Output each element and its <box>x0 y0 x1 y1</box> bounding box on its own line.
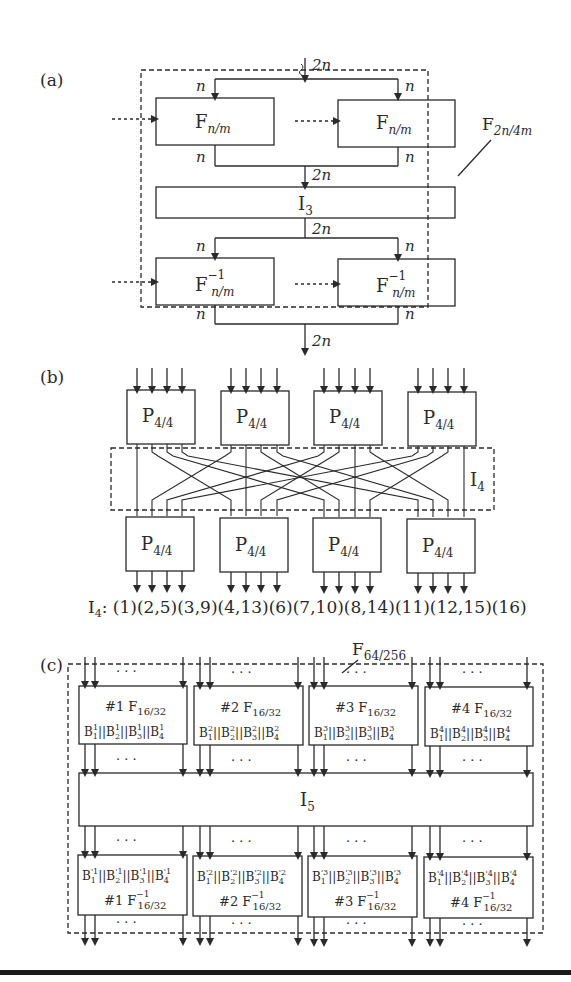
ellipsis: · · · <box>462 917 483 932</box>
ellipsis: · · · <box>231 665 252 680</box>
permutation-wires <box>137 444 464 517</box>
ellipsis: · · · <box>346 834 367 849</box>
interleaver-label: I3 <box>298 193 313 218</box>
ellipsis: · · · <box>116 915 137 930</box>
ellipsis: · · · <box>346 753 367 768</box>
branch-width-label: n <box>405 77 415 95</box>
block-contents: B1'1||B2'1||B3'1||B4'1 B1'2||B2'2||B3'2|… <box>82 867 517 887</box>
ellipsis: · · · <box>116 664 137 679</box>
p-block-label: P4/4 <box>141 533 173 558</box>
ellipsis: · · · <box>116 833 137 848</box>
block-title: #1 F−116/32 <box>104 889 166 911</box>
interleaver-label: I5 <box>300 789 315 814</box>
svg-text:B1'2||B2'2||B3'2||B4'2: B1'2||B2'2||B3'2||B4'2 <box>197 868 286 886</box>
top-arrows <box>85 657 527 686</box>
branch-width-label: n <box>196 148 206 166</box>
width-label: 2n <box>311 220 331 238</box>
branch-width-label: n <box>405 237 415 255</box>
block-title: #4 F16/32 <box>451 701 512 719</box>
branch-width-label: n <box>405 148 415 166</box>
panel-a: (a) 2n n n Fn/m Fn/m n n 2n F2n/4m I <box>40 56 532 352</box>
svg-text:B13||B23||B33||B43: B13||B23||B33||B43 <box>314 724 394 742</box>
block-title: #3 F−116/32 <box>334 890 396 912</box>
width-label: 2n <box>311 166 331 184</box>
branch-width-label: n <box>405 305 415 323</box>
panel-b-label: (b) <box>40 367 64 387</box>
lower-arrows <box>85 826 527 857</box>
ellipsis: · · · <box>462 834 483 849</box>
panel-c: (c) F64/256 · · · · · · · · · · · · #1 F… <box>40 639 543 943</box>
permutation-definition: I4: (1)(2,5)(3,9)(4,13)(6)(7,10)(8,14)(1… <box>88 597 527 620</box>
ellipsis: · · · <box>231 834 252 849</box>
panel-b: (b) P4/4 P4/4 P4/4 P4/4 I4 <box>40 367 527 620</box>
ellipsis: · · · <box>346 665 367 680</box>
p-block-label: P4/4 <box>328 534 360 559</box>
ellipsis: · · · <box>231 753 252 768</box>
f-inverse-label: F−1n/m <box>376 269 415 300</box>
svg-text:B12||B22||B32||B42: B12||B22||B32||B42 <box>199 724 279 742</box>
p-block-label: P4/4 <box>236 406 268 431</box>
block-title: #1 F16/32 <box>105 699 166 717</box>
svg-text:B11||B21||B31||B41: B11||B21||B31||B41 <box>84 723 164 741</box>
branch-width-label: n <box>196 305 206 323</box>
block-title: #3 F16/32 <box>335 700 396 718</box>
input-arrows <box>137 368 464 390</box>
figure-canvas: (a) 2n n n Fn/m Fn/m n n 2n F2n/4m I <box>0 0 571 982</box>
ellipsis: · · · <box>116 752 137 767</box>
panel-c-label: (c) <box>40 655 63 675</box>
svg-text:B1'3||B2'3||B3'3||B4'3: B1'3||B2'3||B3'3||B4'3 <box>312 868 401 886</box>
input-width-label: 2n <box>311 56 331 74</box>
block-contents: B11||B21||B31||B41 B12||B22||B32||B42 B1… <box>84 723 510 743</box>
ellipsis: · · · <box>462 665 483 680</box>
svg-text:B14||B24||B34||B44: B14||B24||B34||B44 <box>430 725 510 743</box>
panel-a-label: (a) <box>40 70 63 90</box>
block-title: #2 F16/32 <box>220 700 281 718</box>
mid-arrows <box>85 744 527 774</box>
output-arrows <box>137 571 464 590</box>
p-block-label: P4/4 <box>235 534 267 559</box>
output-width-label: 2n <box>311 332 331 350</box>
svg-text:B1'1||B2'1||B3'1||B4'1: B1'1||B2'1||B3'1||B4'1 <box>82 867 171 885</box>
f-block-label: Fn/m <box>376 112 412 137</box>
block-title: #4 F−116/32 <box>450 891 512 913</box>
f-inverse-label: F−1n/m <box>195 268 234 299</box>
p-block-label: P4/4 <box>423 407 455 432</box>
outer-label: F64/256 <box>352 639 406 663</box>
block-title: #2 F−116/32 <box>219 890 281 912</box>
outer-label: F2n/4m <box>482 114 532 138</box>
page-rule <box>0 970 571 975</box>
ellipsis: · · · <box>346 916 367 931</box>
branch-width-label: n <box>196 237 206 255</box>
interleaver-i4-box <box>111 448 494 510</box>
ellipsis: · · · <box>462 753 483 768</box>
ellipsis: · · · <box>231 916 252 931</box>
p-block-label: P4/4 <box>329 406 361 431</box>
svg-text:B1'4||B2'4||B3'4||B4'4: B1'4||B2'4||B3'4||B4'4 <box>428 869 517 887</box>
p-block-label: P4/4 <box>422 535 454 560</box>
p-block-label: P4/4 <box>142 405 174 430</box>
outer-dashed-box <box>141 70 428 307</box>
interleaver-label: I4 <box>470 469 485 494</box>
output-arrows <box>85 915 527 943</box>
f-block-label: Fn/m <box>195 111 231 136</box>
branch-width-label: n <box>196 77 206 95</box>
